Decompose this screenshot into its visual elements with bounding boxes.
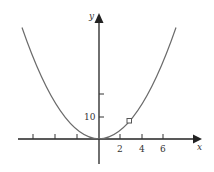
parabola-chart: 2 4 6 10 x y: [0, 0, 214, 172]
x-tick-label-2: 2: [117, 144, 123, 154]
y-tick-label-10: 10: [84, 112, 96, 122]
x-tick-label-6: 6: [160, 144, 166, 154]
y-ticks: [99, 94, 104, 117]
y-axis-arrow-icon: [95, 13, 104, 23]
y-axis-label: y: [88, 11, 95, 21]
x-axis-label: x: [197, 142, 202, 152]
open-circle-marker: [127, 119, 132, 124]
x-tick-label-4: 4: [139, 144, 145, 154]
